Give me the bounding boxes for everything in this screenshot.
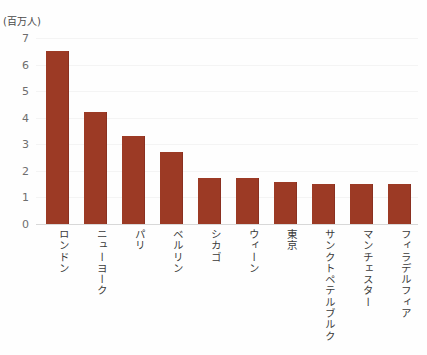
- y-axis-tick-label: 7: [22, 33, 29, 44]
- x-axis-category-label: ニューヨーク: [84, 229, 106, 297]
- y-axis-tick-label: 2: [22, 165, 29, 176]
- bar: [312, 184, 335, 224]
- bar-series: [36, 38, 418, 224]
- x-axis-category-labels: ロンドンニューヨークパリベルリンシカゴウィーン東京サンクトペテルブルクマンチェス…: [36, 229, 418, 349]
- bar: [46, 51, 69, 224]
- bar: [350, 184, 373, 224]
- x-axis-category-label: マンチェスター: [350, 229, 372, 308]
- plot-area: 01234567: [36, 38, 418, 224]
- bar: [274, 182, 297, 225]
- y-axis-tick-label: 5: [22, 86, 29, 97]
- x-axis-category-label: フィラデルフィア: [388, 229, 410, 319]
- x-axis-category-label: 東京: [274, 229, 296, 252]
- x-axis-category-label: ロンドン: [46, 229, 68, 274]
- bar-chart: (百万人) 01234567 ロンドンニューヨークパリベルリンシカゴウィーン東京…: [0, 0, 427, 355]
- bar: [236, 178, 259, 225]
- bar: [122, 136, 145, 224]
- y-axis-tick-label: 1: [22, 192, 29, 203]
- y-axis-tick-label: 3: [22, 139, 29, 150]
- y-axis-unit-label: (百万人): [3, 13, 41, 28]
- x-axis-category-label: ウィーン: [236, 229, 258, 274]
- x-axis-line: [36, 224, 418, 225]
- bar: [388, 184, 411, 224]
- x-axis-category-label: サンクトペテルブルク: [312, 229, 334, 342]
- x-axis-category-label: パリ: [122, 229, 144, 252]
- x-axis-category-label: シカゴ: [198, 229, 220, 263]
- bar: [198, 178, 221, 225]
- x-axis-category-label: ベルリン: [160, 229, 182, 274]
- y-axis-tick-label: 4: [22, 112, 29, 123]
- bar: [84, 112, 107, 224]
- y-axis-tick-label: 0: [22, 219, 29, 230]
- bar: [160, 152, 183, 224]
- y-axis-tick-label: 6: [22, 59, 29, 70]
